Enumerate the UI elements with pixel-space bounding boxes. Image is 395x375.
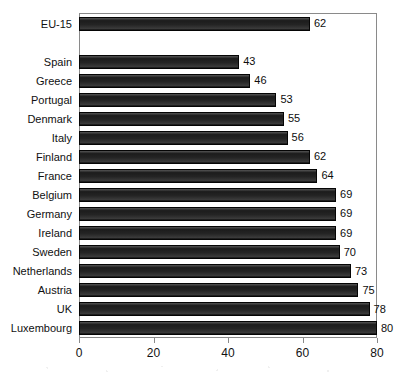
x-tick-label: 0 bbox=[76, 347, 83, 359]
bar-with-value: 69 bbox=[79, 207, 352, 221]
bar-value-label: 69 bbox=[340, 228, 352, 239]
bar-row: EU-1562 bbox=[79, 14, 377, 33]
bar bbox=[79, 264, 351, 278]
bar bbox=[79, 74, 250, 88]
bar-value-label: 75 bbox=[362, 285, 374, 296]
bar bbox=[79, 169, 317, 183]
category-label: Finland bbox=[36, 151, 72, 162]
bar bbox=[79, 302, 370, 316]
bar-row: Italy56 bbox=[79, 128, 377, 147]
bar-with-value: 55 bbox=[79, 112, 300, 126]
bar-with-value: 69 bbox=[79, 226, 352, 240]
category-label: Portugal bbox=[31, 94, 72, 105]
x-tick-mark bbox=[303, 338, 304, 343]
x-tick-label: 80 bbox=[370, 347, 383, 359]
scan-noise-artifact bbox=[0, 363, 395, 375]
bar-row: Sweden70 bbox=[79, 243, 377, 262]
category-label: Greece bbox=[36, 75, 72, 86]
bar-value-label: 62 bbox=[314, 18, 326, 29]
bar bbox=[79, 17, 310, 31]
bar-value-label: 73 bbox=[355, 266, 367, 277]
bar-row: Spain43 bbox=[79, 52, 377, 71]
category-label: Ireland bbox=[38, 228, 72, 239]
bar-value-label: 43 bbox=[243, 56, 255, 67]
bar-value-label: 53 bbox=[280, 94, 292, 105]
bar-value-label: 69 bbox=[340, 208, 352, 219]
category-label: Spain bbox=[44, 56, 72, 67]
bar-with-value: 43 bbox=[79, 55, 255, 69]
category-label: Germany bbox=[27, 208, 72, 219]
category-label: France bbox=[38, 170, 72, 181]
bar-with-value: 78 bbox=[79, 302, 386, 316]
bar-row: Ireland69 bbox=[79, 224, 377, 243]
bar-value-label: 62 bbox=[314, 151, 326, 162]
bar-with-value: 80 bbox=[79, 321, 393, 335]
category-label: UK bbox=[57, 304, 72, 315]
bar-with-value: 46 bbox=[79, 74, 267, 88]
bar-with-value: 69 bbox=[79, 188, 352, 202]
bar-value-label: 64 bbox=[321, 170, 333, 181]
bar-rows-container: EU-1562Spain43Greece46Portugal53Denmark5… bbox=[79, 14, 377, 338]
bar-row-empty bbox=[79, 33, 377, 52]
category-label: Sweden bbox=[32, 247, 72, 258]
bar bbox=[79, 93, 276, 107]
bar-with-value: 64 bbox=[79, 169, 334, 183]
bar bbox=[79, 283, 358, 297]
bar-row: Belgium69 bbox=[79, 185, 377, 204]
bar-with-value: 62 bbox=[79, 150, 326, 164]
bar-row: Netherlands73 bbox=[79, 262, 377, 281]
bar bbox=[79, 55, 239, 69]
bar-with-value: 56 bbox=[79, 131, 304, 145]
category-label: Belgium bbox=[32, 189, 72, 200]
bar-row: Greece46 bbox=[79, 71, 377, 90]
bar bbox=[79, 321, 377, 335]
bar-value-label: 55 bbox=[288, 113, 300, 124]
x-tick-label: 60 bbox=[296, 347, 309, 359]
bar-with-value: 73 bbox=[79, 264, 367, 278]
bar-value-label: 56 bbox=[292, 132, 304, 143]
bar-row: Luxembourg80 bbox=[79, 319, 377, 338]
bar bbox=[79, 188, 336, 202]
bar bbox=[79, 112, 284, 126]
x-tick-label: 20 bbox=[147, 347, 160, 359]
bar-value-label: 69 bbox=[340, 189, 352, 200]
category-label: Denmark bbox=[27, 113, 72, 124]
bar bbox=[79, 245, 340, 259]
category-label: EU-15 bbox=[41, 18, 72, 29]
bar bbox=[79, 226, 336, 240]
x-tick-mark bbox=[154, 338, 155, 343]
x-tick-mark bbox=[377, 338, 378, 343]
bar-value-label: 80 bbox=[381, 323, 393, 334]
bar-row: Portugal53 bbox=[79, 90, 377, 109]
bar-with-value: 75 bbox=[79, 283, 375, 297]
bar-value-label: 78 bbox=[374, 304, 386, 315]
category-label: Austria bbox=[38, 285, 72, 296]
bar-chart: EU-1562Spain43Greece46Portugal53Denmark5… bbox=[0, 0, 395, 375]
bar-row: Austria75 bbox=[79, 281, 377, 300]
category-label: Luxembourg bbox=[11, 323, 72, 334]
bar-row: Denmark55 bbox=[79, 109, 377, 128]
bar-with-value: 53 bbox=[79, 93, 293, 107]
bar-value-label: 46 bbox=[254, 75, 266, 86]
bar-with-value: 70 bbox=[79, 245, 356, 259]
bar-row: Germany69 bbox=[79, 204, 377, 223]
x-tick-label: 40 bbox=[221, 347, 234, 359]
x-tick-mark bbox=[228, 338, 229, 343]
bar bbox=[79, 131, 288, 145]
bar bbox=[79, 207, 336, 221]
bar bbox=[79, 150, 310, 164]
bar-row: Finland62 bbox=[79, 147, 377, 166]
category-label: Netherlands bbox=[13, 266, 72, 277]
bar-row: France64 bbox=[79, 166, 377, 185]
bar-value-label: 70 bbox=[344, 247, 356, 258]
category-label: Italy bbox=[52, 132, 72, 143]
bar-with-value: 62 bbox=[79, 17, 326, 31]
bar-row: UK78 bbox=[79, 300, 377, 319]
x-tick-mark bbox=[79, 338, 80, 343]
